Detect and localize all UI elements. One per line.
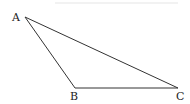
vertex-label-b: B xyxy=(70,90,78,103)
vertex-label-c: C xyxy=(176,90,184,103)
triangle-abc xyxy=(25,17,178,88)
triangle-diagram: A B C xyxy=(0,0,190,104)
vertex-label-a: A xyxy=(11,11,21,24)
